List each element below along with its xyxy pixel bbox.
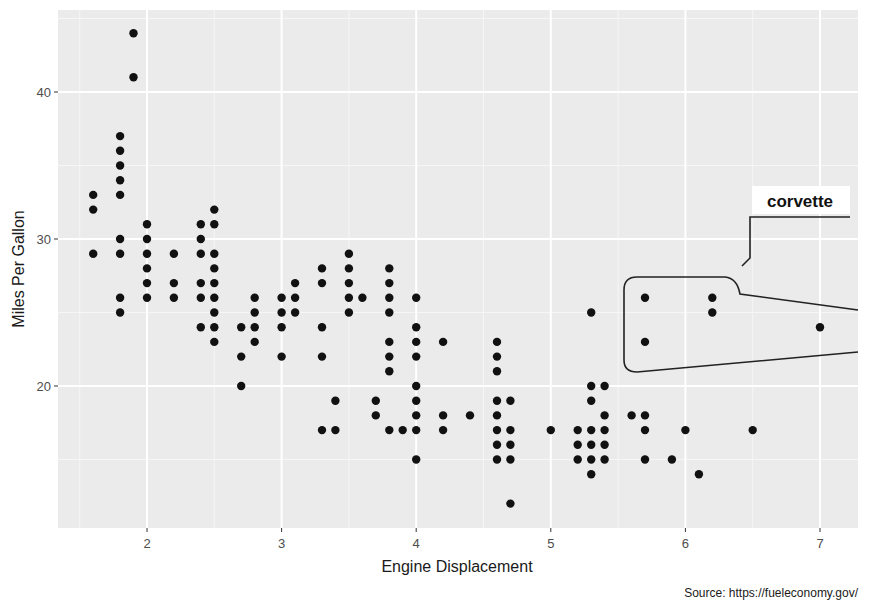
data-point: [318, 352, 326, 360]
data-point: [116, 176, 124, 184]
data-point: [641, 294, 649, 302]
data-point: [493, 397, 501, 405]
data-point: [129, 73, 137, 81]
source-caption: Source: https://fueleconomy.gov/: [684, 586, 859, 600]
data-point: [170, 250, 178, 258]
data-point: [641, 411, 649, 419]
data-point: [116, 308, 124, 316]
data-point: [331, 426, 339, 434]
plot-panel: [58, 10, 858, 528]
data-point: [291, 294, 299, 302]
x-axis-title: Engine Displacement: [381, 558, 533, 575]
data-point: [210, 323, 218, 331]
data-point: [641, 455, 649, 463]
data-point: [439, 426, 447, 434]
data-point: [197, 323, 205, 331]
data-point: [600, 382, 608, 390]
data-point: [439, 338, 447, 346]
data-point: [197, 250, 205, 258]
data-point: [197, 279, 205, 287]
data-point: [129, 29, 137, 37]
x-tick-label: 3: [278, 536, 285, 551]
data-point: [331, 397, 339, 405]
y-tick-label: 30: [37, 232, 51, 247]
data-point: [600, 411, 608, 419]
data-point: [210, 338, 218, 346]
x-axis-ticks: 234567: [143, 528, 823, 551]
data-point: [116, 294, 124, 302]
data-point: [89, 205, 97, 213]
data-point: [708, 294, 716, 302]
data-point: [277, 294, 285, 302]
data-point: [385, 308, 393, 316]
data-point: [116, 235, 124, 243]
x-tick-label: 6: [682, 536, 689, 551]
data-point: [210, 264, 218, 272]
data-point: [116, 147, 124, 155]
data-point: [574, 426, 582, 434]
data-point: [412, 294, 420, 302]
data-point: [237, 382, 245, 390]
data-point: [587, 470, 595, 478]
data-point: [385, 367, 393, 375]
data-point: [493, 367, 501, 375]
data-point: [143, 235, 151, 243]
y-axis-title: Miles Per Gallon: [10, 210, 27, 327]
x-tick-label: 7: [816, 536, 823, 551]
data-point: [668, 455, 676, 463]
data-point: [318, 279, 326, 287]
data-point: [197, 220, 205, 228]
data-point: [277, 323, 285, 331]
data-point: [345, 250, 353, 258]
data-point: [412, 338, 420, 346]
data-point: [641, 426, 649, 434]
data-point: [600, 426, 608, 434]
data-point: [412, 323, 420, 331]
y-tick-label: 40: [37, 85, 51, 100]
data-point: [493, 426, 501, 434]
data-point: [318, 323, 326, 331]
data-point: [210, 250, 218, 258]
data-point: [493, 338, 501, 346]
data-point: [708, 308, 716, 316]
data-point: [506, 397, 514, 405]
data-point: [210, 220, 218, 228]
data-point: [143, 279, 151, 287]
data-point: [251, 294, 259, 302]
data-point: [251, 323, 259, 331]
data-point: [318, 264, 326, 272]
data-point: [749, 426, 757, 434]
data-point: [251, 308, 259, 316]
data-point: [412, 352, 420, 360]
data-point: [466, 411, 474, 419]
data-point: [681, 426, 689, 434]
data-point: [412, 426, 420, 434]
data-point: [237, 352, 245, 360]
data-point: [439, 411, 447, 419]
data-point: [385, 264, 393, 272]
data-point: [385, 338, 393, 346]
data-point: [547, 426, 555, 434]
data-point: [197, 294, 205, 302]
data-point: [574, 455, 582, 463]
data-point: [143, 220, 151, 228]
scatter-chart: corvette 234567 203040 Engine Displaceme…: [0, 0, 873, 612]
data-point: [493, 441, 501, 449]
data-point: [291, 279, 299, 287]
x-tick-label: 2: [143, 536, 150, 551]
data-point: [600, 455, 608, 463]
data-point: [116, 132, 124, 140]
data-point: [143, 250, 151, 258]
x-tick-label: 5: [547, 536, 554, 551]
data-point: [277, 352, 285, 360]
data-point: [587, 397, 595, 405]
data-point: [385, 426, 393, 434]
data-point: [695, 470, 703, 478]
data-point: [506, 499, 514, 507]
data-point: [506, 455, 514, 463]
data-point: [116, 250, 124, 258]
data-point: [816, 323, 824, 331]
data-point: [251, 338, 259, 346]
data-point: [385, 279, 393, 287]
data-point: [641, 338, 649, 346]
